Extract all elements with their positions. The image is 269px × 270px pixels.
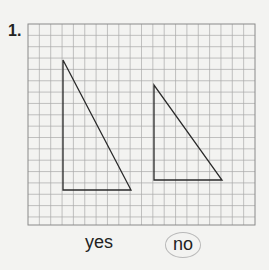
graph-paper-grid [0,0,269,270]
answer-no-circled[interactable]: no [165,232,201,258]
answer-yes[interactable]: yes [85,232,113,253]
grid-lines [28,24,255,225]
answer-no-label: no [173,235,193,253]
